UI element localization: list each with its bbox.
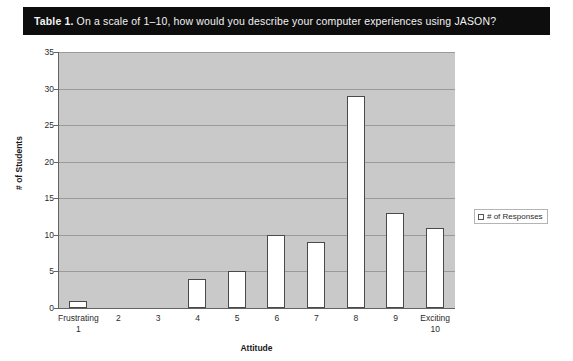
bar-slot [217,52,257,308]
bar[interactable] [386,213,404,308]
bar[interactable] [188,279,206,308]
y-axis-title: # of Students [14,123,24,203]
x-tick-line1: 5 [235,313,240,323]
x-tick-line1: 7 [314,313,319,323]
x-tick-label: 8 [336,313,376,334]
x-tick-line2: 10 [415,324,455,335]
y-tick-mark [54,308,58,309]
y-tick-mark [54,89,58,90]
bar-slot [257,52,297,308]
bar[interactable] [347,96,365,308]
y-tick-label: 30 [30,84,54,94]
caption-question: On a scale of 1–10, how would you descri… [74,15,497,27]
caption-label: Table 1. [34,15,74,27]
x-tick-line1: Frustrating [58,313,99,323]
x-axis-line [58,308,455,309]
bar[interactable] [69,301,87,308]
table-caption-text: Table 1. On a scale of 1–10, how would y… [34,15,496,27]
legend-label: # of Responses [487,212,543,221]
x-tick-line2: 1 [58,324,99,335]
y-tick-mark [54,52,58,53]
x-tick-line1: 9 [393,313,398,323]
bar-slot [415,52,455,308]
table-caption-band: Table 1. On a scale of 1–10, how would y… [23,7,550,35]
x-axis-ticks: Frustrating 1 2 3 4 5 6 7 8 9 Exciting 1… [58,313,455,334]
x-axis-title: Attitude [58,343,455,353]
x-tick-label: Frustrating 1 [58,313,99,334]
x-tick-line1: 3 [156,313,161,323]
y-tick-label: 35 [30,47,54,57]
x-tick-label: 5 [217,313,257,334]
x-tick-label: Exciting 10 [415,313,455,334]
y-tick-mark [54,271,58,272]
x-tick-line1: 8 [354,313,359,323]
bar-slot [376,52,416,308]
x-tick-line1: 6 [274,313,279,323]
x-tick-line1: 2 [116,313,121,323]
y-axis-ticks: 35 30 25 20 15 10 5 0 [30,36,54,326]
y-tick-label: 15 [30,193,54,203]
bar-series [58,52,455,308]
y-tick-mark [54,125,58,126]
x-tick-label: 9 [376,313,416,334]
bar-slot [137,52,177,308]
y-tick-mark [54,162,58,163]
y-tick-mark [54,198,58,199]
bar-slot [296,52,336,308]
y-tick-label: 20 [30,157,54,167]
y-tick-mark [54,235,58,236]
bar[interactable] [228,271,246,308]
x-tick-label: 2 [99,313,139,334]
bar[interactable] [426,228,444,309]
bar-slot [58,52,98,308]
y-tick-label: 0 [30,303,54,313]
open-square-icon [478,214,484,220]
bar[interactable] [307,242,325,308]
x-tick-line1: Exciting [420,313,450,323]
y-tick-label: 25 [30,120,54,130]
x-tick-label: 4 [178,313,218,334]
bar[interactable] [267,235,285,308]
x-tick-label: 3 [138,313,178,334]
x-tick-label: 6 [257,313,297,334]
bar-slot [177,52,217,308]
bar-slot [336,52,376,308]
y-tick-label: 5 [30,266,54,276]
y-tick-label: 10 [30,230,54,240]
bar-slot [98,52,138,308]
bar-chart-figure: 35 30 25 20 15 10 5 0 # of Students Frus… [0,36,573,361]
x-tick-label: 7 [297,313,337,334]
x-tick-line1: 4 [195,313,200,323]
chart-legend[interactable]: # of Responses [474,209,548,224]
